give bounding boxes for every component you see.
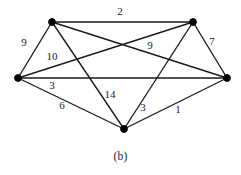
edge-weight-label: 6 [59, 99, 65, 111]
graph-edge [18, 78, 124, 129]
edge-weight-label: 10 [47, 50, 59, 62]
graph-edge [193, 22, 227, 78]
edges-layer [18, 22, 227, 129]
graph-vertex-top-left [49, 19, 56, 26]
graph-edge [18, 22, 193, 78]
graph-vertex-top-right [190, 19, 197, 26]
nodes-layer [15, 19, 231, 133]
figure-container: 299710361431 (b) [0, 0, 241, 175]
graph-edge [52, 22, 227, 78]
edge-weight-label: 14 [105, 88, 117, 100]
graph-vertex-right [224, 75, 231, 82]
edge-weight-label: 3 [140, 101, 146, 113]
edge-weight-label: 9 [147, 39, 153, 51]
edge-weight-label: 9 [21, 36, 27, 48]
graph-vertex-bottom [121, 126, 128, 133]
edge-weight-label: 7 [209, 35, 215, 47]
graph-edge [52, 22, 124, 129]
graph-edge [124, 22, 193, 129]
graph-vertex-left [15, 75, 22, 82]
edge-weight-label: 2 [117, 5, 123, 17]
weighted-graph-diagram: 299710361431 [0, 0, 241, 175]
edge-weight-label: 3 [49, 79, 55, 91]
figure-caption: (b) [0, 150, 241, 162]
edge-weight-label: 1 [175, 103, 181, 115]
